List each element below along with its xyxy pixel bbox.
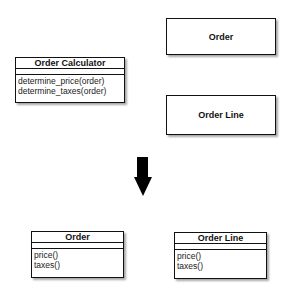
down-arrow-icon [133, 157, 153, 196]
operation: taxes() [177, 261, 264, 271]
box-label: Order Line [198, 110, 244, 120]
box-label: Order [209, 32, 234, 42]
class-order: Order price() taxes() [31, 231, 124, 278]
operations-compartment: price() taxes() [32, 249, 123, 271]
operation: price() [177, 251, 264, 261]
class-name: Order [32, 232, 123, 243]
class-order-calculator: Order Calculator determine_price(order) … [15, 57, 125, 103]
box-order-line: Order Line [166, 95, 276, 135]
class-name: Order Line [175, 233, 266, 244]
operations-compartment: price() taxes() [175, 250, 266, 272]
class-name: Order Calculator [16, 58, 124, 69]
operations-compartment: determine_price(order) determine_taxes(o… [16, 75, 124, 97]
class-order-line: Order Line price() taxes() [174, 232, 267, 279]
box-order: Order [166, 18, 276, 55]
operation: determine_price(order) [18, 76, 122, 86]
operation: price() [34, 250, 121, 260]
operation: taxes() [34, 260, 121, 270]
operation: determine_taxes(order) [18, 86, 122, 96]
